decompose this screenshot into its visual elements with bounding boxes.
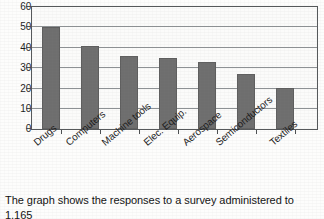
x-tick-5 xyxy=(217,130,218,134)
x-tick-4 xyxy=(178,130,179,134)
y-tick-label-30: 30 xyxy=(5,63,31,73)
x-tick-2 xyxy=(100,130,101,134)
caption-line-1: The graph shows the responses to a surve… xyxy=(5,194,294,219)
x-tick-1 xyxy=(61,130,62,134)
x-tick-3 xyxy=(139,130,140,134)
y-tick-label-20: 20 xyxy=(5,84,31,94)
x-tick-6 xyxy=(256,130,257,134)
y-tick-label-50: 50 xyxy=(5,22,31,32)
gridline-40 xyxy=(32,47,317,48)
gridline-50 xyxy=(32,26,317,27)
y-axis: 60 50 40 30 20 10 0 xyxy=(0,0,31,136)
figure-caption: The graph shows the responses to a surve… xyxy=(5,193,321,219)
y-tick-label-0: 0 xyxy=(5,124,31,134)
y-tick-label-10: 10 xyxy=(5,104,31,114)
bar-drugs[interactable] xyxy=(42,27,60,129)
y-tick-label-60: 60 xyxy=(5,2,31,12)
x-tick-7 xyxy=(295,130,296,134)
y-tick-label-40: 40 xyxy=(5,43,31,53)
bar-chart-figure: 60 50 40 30 20 10 0 xyxy=(0,0,324,192)
